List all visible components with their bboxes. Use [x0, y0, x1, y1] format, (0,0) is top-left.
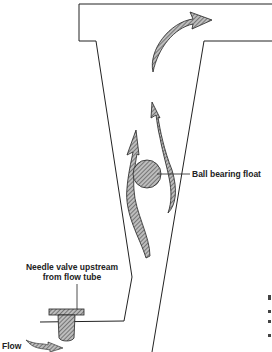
outlet-flow-arrow: [152, 12, 212, 72]
ball-bearing-float: [133, 160, 161, 188]
cropped-text-fragments: [268, 295, 271, 337]
needle-valve-label: Needle valve upstream from flow tube: [6, 262, 138, 282]
right-flow-arrow: [151, 102, 175, 213]
needle-valve: [49, 284, 84, 341]
needle-valve-label-line2: from flow tube: [6, 272, 138, 282]
left-flow-arrow: [127, 130, 150, 258]
inlet-flow-arrow: [26, 340, 63, 352]
needle-valve-label-line1: Needle valve upstream: [6, 262, 138, 272]
flow-label: Flow: [2, 341, 21, 351]
float-label: Ball bearing float: [192, 169, 261, 179]
